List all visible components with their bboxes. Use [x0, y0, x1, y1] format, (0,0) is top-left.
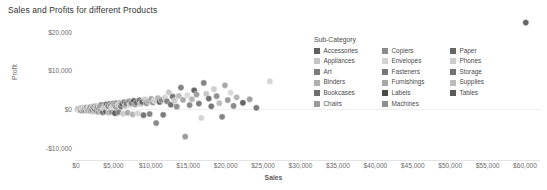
x-tick-label: $20,000 — [214, 162, 238, 169]
legend-item-binders[interactable]: Binders — [314, 77, 382, 88]
legend-color-swatch — [382, 90, 388, 96]
scatter-point[interactable] — [219, 114, 225, 120]
scatter-point[interactable] — [234, 94, 240, 100]
legend-item-labels[interactable]: Labels — [382, 88, 450, 99]
scatter-point[interactable] — [193, 91, 199, 97]
scatter-point[interactable] — [240, 100, 246, 106]
x-tick-label: $40,000 — [363, 162, 387, 169]
legend-item-label: Envelopes — [392, 58, 422, 64]
legend-color-swatch — [382, 80, 388, 86]
scatter-point[interactable] — [211, 86, 217, 92]
x-tick-label: $50,000 — [438, 162, 462, 169]
scatter-point[interactable] — [228, 90, 234, 96]
legend-item-label: Tables — [460, 90, 478, 96]
legend-color-swatch — [314, 101, 320, 107]
x-tick-label: $30,000 — [289, 162, 313, 169]
legend-item-bookcases[interactable]: Bookcases — [314, 88, 382, 99]
legend[interactable]: Sub-Category AccessoriesAppliancesArtBin… — [314, 36, 522, 109]
scatter-point[interactable] — [187, 102, 193, 108]
scatter-point[interactable] — [198, 115, 204, 121]
scatter-point[interactable] — [214, 93, 220, 99]
legend-color-swatch — [314, 48, 320, 54]
legend-item-label: Supplies — [460, 79, 485, 85]
scatter-point[interactable] — [135, 110, 141, 116]
x-axis-ticks: $0$5,000$10,000$15,000$20,000$25,000$30,… — [76, 162, 540, 174]
scatter-point[interactable] — [208, 103, 214, 109]
legend-item-label: Bookcases — [324, 90, 355, 96]
legend-item-appliances[interactable]: Appliances — [314, 56, 382, 67]
legend-column: PaperPhonesStorageSuppliesTables — [450, 46, 518, 110]
legend-item-phones[interactable]: Phones — [450, 56, 518, 67]
legend-item-label: Accessories — [324, 48, 358, 54]
scatter-point[interactable] — [216, 100, 222, 106]
scatter-point[interactable] — [174, 104, 180, 110]
scatter-point[interactable] — [182, 134, 188, 140]
scatter-point[interactable] — [160, 112, 166, 118]
legend-item-fasteners[interactable]: Fasteners — [382, 67, 450, 78]
legend-item-storage[interactable]: Storage — [450, 67, 518, 78]
page-title: Sales and Profits for different Products — [8, 5, 157, 15]
y-tick-label: $10,000 — [48, 67, 72, 74]
legend-column: CopiersEnvelopesFastenersFurnishingsLabe… — [382, 46, 450, 110]
legend-color-swatch — [314, 69, 320, 75]
legend-item-label: Labels — [392, 90, 411, 96]
scatter-point[interactable] — [153, 120, 159, 126]
legend-item-art[interactable]: Art — [314, 67, 382, 78]
legend-column: AccessoriesAppliancesArtBindersBookcases… — [314, 46, 382, 110]
scatter-point[interactable] — [147, 111, 153, 117]
y-tick-label: $0 — [65, 106, 72, 113]
scatter-point[interactable] — [180, 97, 186, 103]
legend-item-chairs[interactable]: Chairs — [314, 98, 382, 109]
legend-item-label: Storage — [460, 69, 482, 75]
scatter-point[interactable] — [206, 95, 212, 101]
y-axis-ticks: $20,000$10,000$0-$10,000 — [0, 16, 72, 160]
x-tick-label: $55,000 — [476, 162, 500, 169]
legend-item-furnishings[interactable]: Furnishings — [382, 77, 450, 88]
tableau-scatter-viz: Sales and Profits for different Products… — [0, 0, 547, 190]
x-tick-label: $25,000 — [251, 162, 275, 169]
scatter-point[interactable] — [267, 78, 273, 84]
x-tick-label: $35,000 — [326, 162, 350, 169]
scatter-point[interactable] — [225, 97, 231, 103]
scatter-point[interactable] — [247, 96, 253, 102]
y-tick-label: $20,000 — [48, 28, 72, 35]
scatter-point[interactable] — [231, 103, 237, 109]
legend-item-label: Furnishings — [392, 79, 425, 85]
legend-item-label: Machines — [392, 101, 419, 107]
scatter-point[interactable] — [201, 80, 207, 86]
legend-item-paper[interactable]: Paper — [450, 46, 518, 57]
legend-item-label: Binders — [324, 79, 346, 85]
x-tick-label: $0 — [72, 162, 79, 169]
legend-color-swatch — [450, 58, 456, 64]
x-tick-label: $45,000 — [401, 162, 425, 169]
legend-item-copiers[interactable]: Copiers — [382, 46, 450, 57]
legend-title: Sub-Category — [314, 36, 522, 43]
x-tick-label: $60,000 — [513, 162, 537, 169]
legend-color-swatch — [450, 69, 456, 75]
legend-item-machines[interactable]: Machines — [382, 98, 450, 109]
legend-item-envelopes[interactable]: Envelopes — [382, 56, 450, 67]
legend-color-swatch — [450, 80, 456, 86]
legend-color-swatch — [314, 90, 320, 96]
legend-item-tables[interactable]: Tables — [450, 88, 518, 99]
scatter-point[interactable] — [189, 96, 195, 102]
legend-item-label: Phones — [460, 58, 482, 64]
legend-color-swatch — [450, 48, 456, 54]
legend-item-supplies[interactable]: Supplies — [450, 77, 518, 88]
legend-item-label: Appliances — [324, 58, 355, 64]
x-axis-line — [76, 160, 540, 161]
scatter-point[interactable] — [178, 85, 184, 91]
legend-color-swatch — [450, 90, 456, 96]
scatter-point[interactable] — [523, 20, 529, 26]
legend-item-label: Paper — [460, 48, 477, 54]
scatter-point[interactable] — [196, 100, 202, 106]
legend-color-swatch — [382, 48, 388, 54]
scatter-point[interactable] — [253, 105, 259, 111]
legend-item-accessories[interactable]: Accessories — [314, 46, 382, 57]
scatter-point[interactable] — [222, 82, 228, 88]
scatter-point[interactable] — [140, 112, 146, 118]
legend-item-label: Chairs — [324, 101, 342, 107]
x-tick-label: $10,000 — [139, 162, 163, 169]
legend-color-swatch — [382, 69, 388, 75]
legend-item-label: Copiers — [392, 48, 414, 54]
